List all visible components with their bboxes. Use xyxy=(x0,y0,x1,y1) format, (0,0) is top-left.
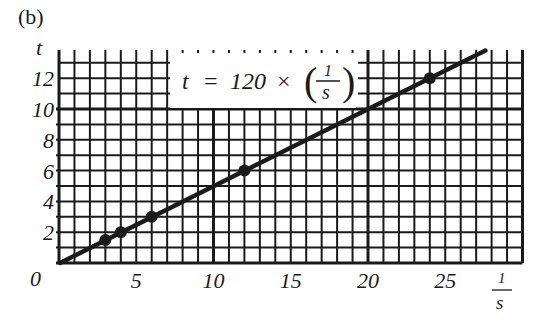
y-axis-label: t xyxy=(36,35,43,60)
chart: (b) t = 120 × ( 1 s ) 51015202524681012 … xyxy=(0,0,541,322)
origin-label: 0 xyxy=(30,266,41,291)
panel-label: (b) xyxy=(18,4,44,29)
formula-equals: = xyxy=(204,68,218,94)
y-tick-label: 10 xyxy=(32,97,54,122)
formula-frac-den: s xyxy=(322,81,330,103)
formula-paren-left: ( xyxy=(304,59,317,104)
y-tick-label: 6 xyxy=(43,159,54,184)
x-tick-label: 25 xyxy=(434,268,456,293)
x-tick-label: 5 xyxy=(131,268,142,293)
y-tick-label: 8 xyxy=(43,128,54,153)
formula-constant: 120 xyxy=(230,68,266,94)
formula-annotation: t = 120 × ( 1 s ) xyxy=(170,50,356,108)
data-point xyxy=(146,211,158,223)
x-tick-label: 20 xyxy=(357,268,379,293)
formula-times: × xyxy=(277,68,291,94)
formula-paren-right: ) xyxy=(342,59,355,104)
data-point xyxy=(99,234,111,246)
x-tick-label: 15 xyxy=(280,268,302,293)
data-point xyxy=(115,226,127,238)
formula-frac-num: 1 xyxy=(324,62,332,79)
y-tick-label: 4 xyxy=(43,189,54,214)
data-point xyxy=(238,165,250,177)
data-point xyxy=(424,72,436,84)
x-axis-label-den: s xyxy=(496,292,503,313)
y-tick-label: 2 xyxy=(43,220,54,245)
x-axis-label: 1 s xyxy=(492,270,512,313)
y-tick-label: 12 xyxy=(32,66,54,91)
x-axis-label-num: 1 xyxy=(498,270,506,286)
x-tick-label: 10 xyxy=(203,268,225,293)
